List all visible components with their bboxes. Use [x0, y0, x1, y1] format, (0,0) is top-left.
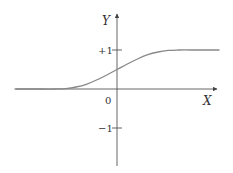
y-tick-label-plus-1: +1 — [98, 45, 113, 56]
y-tick-label-minus-1: −1 — [98, 123, 113, 134]
origin-label: 0 — [105, 95, 111, 106]
x-axis-label: X — [202, 94, 212, 108]
y-axis-label: Y — [102, 14, 111, 28]
sigmoid-chart: Y X 0 +1 −1 — [0, 0, 233, 173]
